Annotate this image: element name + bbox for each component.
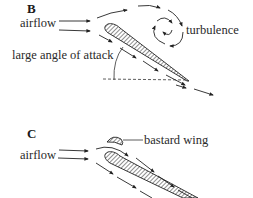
lower-flow-arrow <box>96 163 113 174</box>
lower-flow-arrow <box>140 191 152 198</box>
wing-airfoil <box>105 24 189 81</box>
panel-b-airflow-label: airflow <box>20 17 56 30</box>
turbulence-vortex <box>154 26 165 44</box>
turbulence-vortex <box>170 32 183 46</box>
angle-of-attack-label: large angle of attack <box>12 49 113 62</box>
panel-c-airflow-label: airflow <box>20 149 56 162</box>
lower-flow-arrow <box>117 177 136 188</box>
bastard-wing-alula <box>107 137 123 145</box>
lower-flow-arrow <box>143 61 158 71</box>
trailing-flow-arrow <box>176 85 186 88</box>
turbulence-label: turbulence <box>186 24 239 37</box>
lower-flow-arrow <box>99 35 112 42</box>
panel-b-letter: B <box>27 2 36 15</box>
trailing-flow-arrow <box>194 89 213 95</box>
airflow-arrow <box>58 158 88 159</box>
bastard-wing-label: bastard wing <box>144 134 208 147</box>
airflow-arrow <box>59 30 90 31</box>
upper-flow-arrow <box>97 10 127 18</box>
upper-flow-arrow <box>138 5 160 8</box>
upper-flow-arrow <box>168 10 182 26</box>
wing-airfoil <box>105 152 198 198</box>
angle-arc <box>114 47 123 80</box>
lower-flow-arrow <box>120 48 136 58</box>
panel-c-letter: C <box>27 127 36 140</box>
airflow-arrow <box>59 150 88 151</box>
turbulence-vortex <box>157 18 172 23</box>
turbulence-vortex <box>163 30 172 35</box>
